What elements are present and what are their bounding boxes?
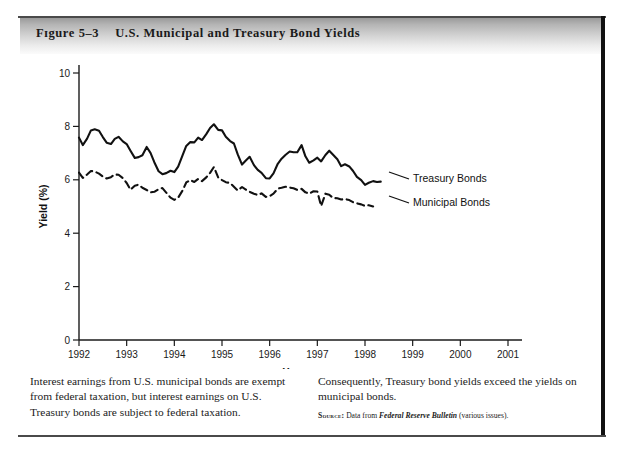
x-tick-label: 1999 xyxy=(402,349,425,360)
x-tick-label: 1992 xyxy=(68,349,91,360)
yield-line-chart: 0246810199219931994199519961997199819992… xyxy=(0,54,601,369)
x-tick-label: 1994 xyxy=(163,349,186,360)
leader-line xyxy=(389,196,409,203)
x-tick-label: 1995 xyxy=(211,349,234,360)
y-tick-label: 8 xyxy=(64,121,70,132)
figure-title: Fɪgure 5–3U.S. Municipal and Treasury Bo… xyxy=(36,26,360,41)
source-text-before: Data from xyxy=(346,411,377,420)
caption-left-text: Interest earnings from U.S. municipal bo… xyxy=(30,374,292,420)
bottom-rule xyxy=(18,435,606,437)
x-tick-label: 2001 xyxy=(497,349,520,360)
series-label-treasury-bonds: Treasury Bonds xyxy=(413,172,487,184)
x-tick-label: 1998 xyxy=(354,349,377,360)
chart-area: 0246810199219931994199519961997199819992… xyxy=(0,54,601,369)
source-label: Source: xyxy=(318,411,344,420)
leader-line xyxy=(389,172,409,179)
series-label-municipal-bonds: Municipal Bonds xyxy=(413,196,490,208)
figure-title-text: U.S. Municipal and Treasury Bond Yields xyxy=(115,26,360,40)
caption-column-right: Consequently, Treasury bond yields excee… xyxy=(318,374,580,421)
x-axis-title: Year xyxy=(282,366,304,369)
y-tick-label: 10 xyxy=(59,68,71,79)
x-tick-label: 1997 xyxy=(306,349,329,360)
series-line-treasury-bonds xyxy=(79,124,381,185)
caption-column-left: Interest earnings from U.S. municipal bo… xyxy=(30,374,292,421)
figure-block: Fɪgure 5–3U.S. Municipal and Treasury Bo… xyxy=(0,0,635,451)
y-axis-title: Yield (%) xyxy=(37,185,49,229)
y-tick-label: 2 xyxy=(64,281,70,292)
series-line-municipal-bonds xyxy=(79,167,373,207)
y-tick-label: 4 xyxy=(64,228,70,239)
x-tick-label: 1996 xyxy=(259,349,282,360)
source-publication: Federal Reserve Bulletin xyxy=(379,411,457,420)
caption-right-text: Consequently, Treasury bond yields excee… xyxy=(318,374,580,405)
source-text-after: (various issues). xyxy=(459,411,508,420)
figure-number: Fɪgure 5–3 xyxy=(36,26,99,40)
y-tick-label: 0 xyxy=(64,335,70,346)
source-line: Source: Data from Federal Reserve Bullet… xyxy=(318,411,580,421)
y-tick-label: 6 xyxy=(64,174,70,185)
figure-caption: Interest earnings from U.S. municipal bo… xyxy=(30,374,590,421)
x-tick-label: 2000 xyxy=(449,349,472,360)
right-border-rule xyxy=(601,16,605,437)
x-tick-label: 1993 xyxy=(116,349,139,360)
